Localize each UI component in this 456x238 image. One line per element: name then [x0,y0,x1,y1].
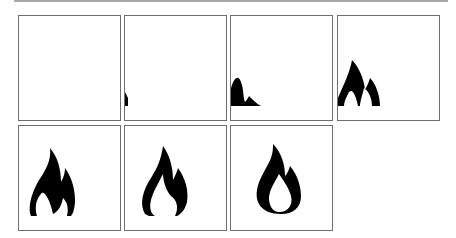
flame-icon [231,16,332,120]
flame-icon-with-core [231,126,332,230]
frame-6 [124,125,227,231]
flame-icon [125,126,226,230]
frame-5 [18,125,121,231]
flame-icon [125,16,226,120]
top-rule [14,0,448,2]
flame-icon [19,126,120,230]
frame-3 [230,15,333,121]
frame-2 [124,15,227,121]
frame-7 [230,125,333,231]
flame-icon [338,16,439,120]
frame-4 [337,15,440,121]
frame-1 [18,15,121,121]
